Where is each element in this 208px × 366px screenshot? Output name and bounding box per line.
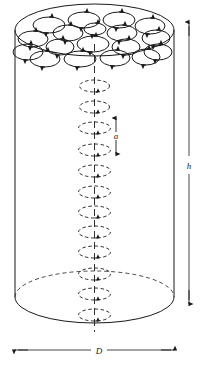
- cell-spacing-dimension: a: [114, 118, 119, 154]
- height-dimension: h: [183, 22, 196, 304]
- circulation-cell: [84, 23, 106, 35]
- circulation-cell: [33, 17, 65, 33]
- cylinder-bottom-back-edge: [15, 271, 174, 297]
- circulation-cell: [64, 51, 96, 67]
- circulation-cell: [135, 18, 165, 34]
- circulation-cell: [53, 25, 83, 41]
- cylinder-circulation-diagram: a h D: [0, 0, 208, 366]
- cell-spacing-label: a: [114, 131, 119, 141]
- height-label: h: [187, 161, 192, 171]
- diameter-dimension: D: [14, 341, 175, 358]
- circulation-cell: [132, 49, 160, 65]
- diameter-label: D: [95, 346, 103, 356]
- figure-container: a h D: [0, 0, 208, 366]
- top-face-cell-array: [13, 12, 172, 67]
- circulation-cell: [77, 36, 109, 52]
